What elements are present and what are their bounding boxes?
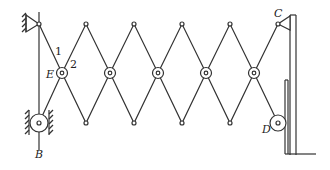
label-E: E — [45, 68, 54, 81]
label-link-1: 1 — [55, 45, 62, 58]
center-hinges — [57, 68, 260, 79]
left-top-fixed-support — [22, 13, 39, 32]
right-wall — [285, 15, 316, 155]
label-B: B — [34, 148, 43, 161]
label-link-2: 2 — [70, 58, 77, 71]
label-C: C — [274, 7, 283, 20]
scissor-mechanism-diagram: 1 2 E B C D — [0, 0, 330, 170]
label-D: D — [261, 123, 271, 136]
